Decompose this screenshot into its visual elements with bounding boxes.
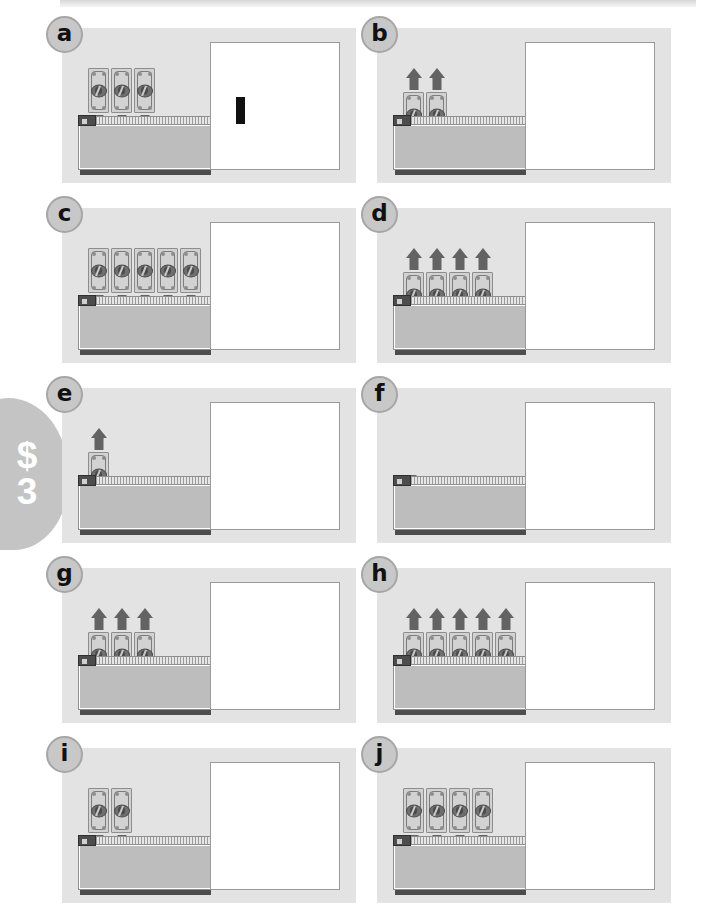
zipper-pull-icon bbox=[78, 655, 96, 666]
problem-panel-i: i bbox=[62, 748, 356, 903]
pouch-zipper bbox=[401, 656, 526, 665]
arrow-up-icon bbox=[474, 608, 491, 630]
arrow-up-icon bbox=[136, 608, 153, 630]
pouch-body bbox=[79, 665, 211, 709]
panel-letter-badge-d: d bbox=[361, 196, 398, 233]
zipper-pull-icon bbox=[393, 655, 411, 666]
dollar-bill-icon bbox=[403, 788, 424, 833]
pouch-base bbox=[80, 530, 211, 535]
money-stage-h bbox=[385, 568, 535, 723]
panel-letter-badge-f: f bbox=[361, 376, 398, 413]
arrow-up-icon bbox=[90, 608, 107, 630]
answer-box-d[interactable] bbox=[525, 222, 655, 350]
problem-panel-h: h bbox=[377, 568, 671, 723]
arrow-up-icon bbox=[474, 248, 491, 270]
coin-pouch-icon-i bbox=[78, 836, 211, 895]
dollar-bill-icon bbox=[180, 248, 201, 293]
dollar-bill-icon bbox=[88, 248, 109, 293]
pouch-base bbox=[80, 350, 211, 355]
pouch-zipper bbox=[401, 836, 526, 845]
dollar-bill-icon bbox=[449, 788, 470, 833]
pouch-zipper bbox=[86, 476, 211, 485]
money-stage-c bbox=[70, 208, 220, 363]
problem-panel-d: d bbox=[377, 208, 671, 363]
answer-box-i[interactable] bbox=[210, 762, 340, 890]
panel-letter-badge-a: a bbox=[46, 16, 83, 53]
answer-box-e[interactable] bbox=[210, 402, 340, 530]
pouch-body bbox=[394, 305, 526, 349]
arrow-up-icon bbox=[405, 608, 422, 630]
answer-box-j[interactable] bbox=[525, 762, 655, 890]
arrow-up-icon bbox=[405, 68, 422, 90]
coin-pouch-icon-j bbox=[393, 836, 526, 895]
arrow-up-icon bbox=[113, 608, 130, 630]
zipper-pull-icon bbox=[78, 475, 96, 486]
problem-panel-g: g bbox=[62, 568, 356, 723]
coin-pouch-icon-c bbox=[78, 296, 211, 355]
pouch-body bbox=[394, 485, 526, 529]
problem-panel-a: a bbox=[62, 28, 356, 183]
zipper-pull-icon bbox=[393, 115, 411, 126]
problem-panel-c: c bbox=[62, 208, 356, 363]
dollar-bill-icon bbox=[111, 248, 132, 293]
pouch-zipper bbox=[401, 116, 526, 125]
dollar-bill-icon bbox=[111, 68, 132, 113]
money-stage-i bbox=[70, 748, 220, 903]
dollar-bill-icon bbox=[88, 788, 109, 833]
arrow-up-icon bbox=[90, 428, 107, 450]
pouch-base bbox=[80, 170, 211, 175]
answer-box-b[interactable] bbox=[525, 42, 655, 170]
pouch-base bbox=[395, 710, 526, 715]
worksheet-grid: abcdefghij bbox=[0, 0, 706, 912]
zipper-pull-icon bbox=[393, 295, 411, 306]
pouch-zipper bbox=[86, 296, 211, 305]
panel-letter-badge-g: g bbox=[46, 556, 83, 593]
pouch-base bbox=[80, 710, 211, 715]
coin-pouch-icon-h bbox=[393, 656, 526, 715]
dollar-bill-icon bbox=[134, 248, 155, 293]
pouch-zipper bbox=[86, 116, 211, 125]
pouch-body bbox=[79, 485, 211, 529]
pouch-body bbox=[79, 125, 211, 169]
problem-panel-b: b bbox=[377, 28, 671, 183]
arrow-up-icon bbox=[428, 608, 445, 630]
pouch-body bbox=[394, 665, 526, 709]
answer-box-a[interactable] bbox=[210, 42, 340, 170]
arrow-up-icon bbox=[451, 248, 468, 270]
answer-box-h[interactable] bbox=[525, 582, 655, 710]
problem-panel-j: j bbox=[377, 748, 671, 903]
pouch-body bbox=[394, 845, 526, 889]
dollar-bill-icon bbox=[134, 68, 155, 113]
answer-box-c[interactable] bbox=[210, 222, 340, 350]
pouch-zipper bbox=[86, 656, 211, 665]
pouch-body bbox=[79, 845, 211, 889]
pouch-body bbox=[394, 125, 526, 169]
pouch-base bbox=[395, 350, 526, 355]
pouch-zipper bbox=[86, 836, 211, 845]
money-stage-b bbox=[385, 28, 535, 183]
money-stage-a bbox=[70, 28, 220, 183]
dollar-bill-icon bbox=[472, 788, 493, 833]
zipper-pull-icon bbox=[78, 295, 96, 306]
pouch-base bbox=[80, 890, 211, 895]
panel-letter-badge-h: h bbox=[361, 556, 398, 593]
zipper-pull-icon bbox=[78, 835, 96, 846]
answer-box-g[interactable] bbox=[210, 582, 340, 710]
coin-pouch-icon-d bbox=[393, 296, 526, 355]
arrow-up-icon bbox=[405, 248, 422, 270]
panel-letter-badge-i: i bbox=[46, 736, 83, 773]
panel-letter-badge-c: c bbox=[46, 196, 83, 233]
money-stage-f bbox=[385, 388, 535, 543]
answer-box-f[interactable] bbox=[525, 402, 655, 530]
problem-panel-e: e bbox=[62, 388, 356, 543]
zipper-pull-icon bbox=[393, 835, 411, 846]
pouch-base bbox=[395, 890, 526, 895]
panel-letter-badge-e: e bbox=[46, 376, 83, 413]
dollar-bill-icon bbox=[111, 788, 132, 833]
money-stage-e bbox=[70, 388, 220, 543]
pouch-body bbox=[79, 305, 211, 349]
arrow-up-icon bbox=[451, 608, 468, 630]
pouch-base bbox=[395, 530, 526, 535]
coin-pouch-icon-e bbox=[78, 476, 211, 535]
pouch-zipper bbox=[401, 476, 526, 485]
